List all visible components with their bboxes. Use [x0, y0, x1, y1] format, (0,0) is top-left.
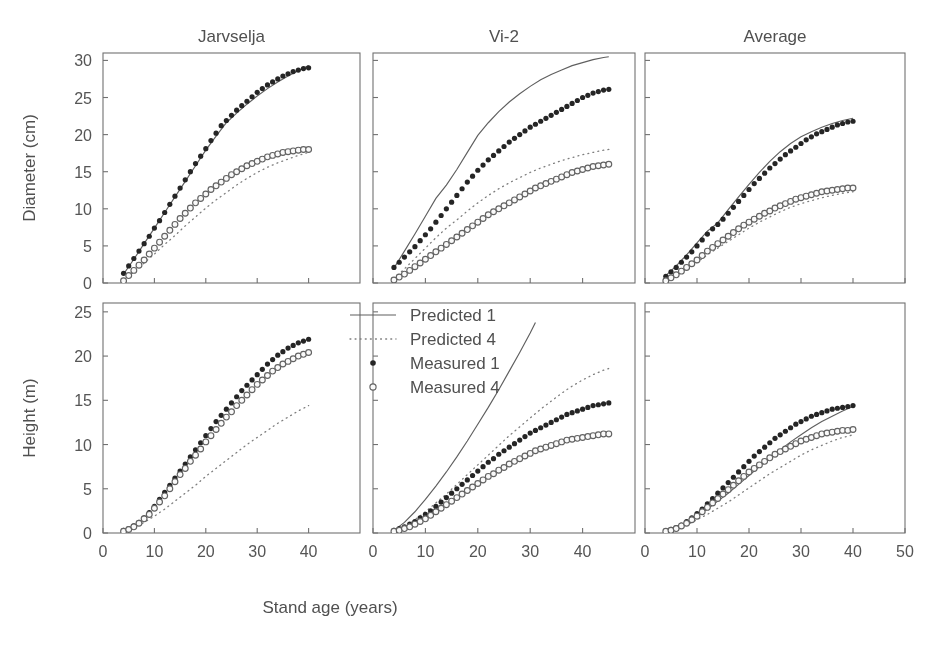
data-point	[684, 520, 690, 526]
y-axis-title-diameter: Diameter (cm)	[20, 114, 39, 222]
data-point	[444, 206, 449, 211]
panel-frame	[645, 53, 905, 283]
data-point	[491, 456, 496, 461]
data-point	[778, 432, 783, 437]
y-tick-label: 25	[74, 304, 92, 321]
data-point	[757, 462, 763, 468]
data-point	[224, 118, 229, 123]
data-point	[193, 452, 199, 458]
data-point	[177, 472, 183, 478]
data-point	[152, 505, 158, 511]
data-point	[234, 108, 239, 113]
data-point	[570, 101, 575, 106]
data-point	[244, 392, 250, 398]
data-point	[699, 509, 705, 515]
x-tick-label: 40	[574, 543, 592, 560]
data-point	[783, 152, 788, 157]
data-point	[193, 161, 198, 166]
data-point	[736, 226, 742, 232]
data-point	[480, 216, 486, 222]
data-point	[585, 93, 590, 98]
y-tick-label: 30	[74, 52, 92, 69]
data-point	[438, 505, 444, 511]
series-measured-1	[391, 87, 611, 270]
data-point	[590, 90, 595, 95]
data-point	[229, 409, 235, 415]
data-point	[788, 425, 793, 430]
series-measured-4	[121, 147, 312, 284]
data-point	[533, 122, 538, 127]
data-point	[772, 161, 777, 166]
data-point	[178, 185, 183, 190]
data-point	[726, 480, 731, 485]
data-point	[183, 177, 188, 182]
series-predicted-1	[124, 66, 309, 274]
data-point	[480, 162, 485, 167]
data-point	[198, 196, 204, 202]
data-point	[306, 350, 312, 356]
data-point	[762, 458, 768, 464]
data-point	[162, 233, 168, 239]
legend-open-circle-icon	[370, 384, 376, 390]
data-point	[177, 216, 183, 222]
y-tick-label: 10	[74, 437, 92, 454]
data-point	[193, 200, 199, 206]
data-point	[522, 128, 527, 133]
panel-average-height: 01020304050	[641, 303, 914, 560]
data-point	[428, 512, 434, 518]
panel-title: Average	[743, 27, 806, 46]
data-point	[454, 234, 460, 240]
data-point	[285, 71, 290, 76]
series-group	[663, 403, 856, 534]
data-point	[830, 407, 835, 412]
panel-title: Jarvselja	[198, 27, 266, 46]
data-point	[470, 473, 475, 478]
data-point	[223, 414, 229, 420]
data-point	[512, 441, 517, 446]
data-point	[575, 408, 580, 413]
data-point	[147, 234, 152, 239]
data-point	[809, 414, 814, 419]
panel-frame	[103, 303, 360, 533]
data-point	[741, 464, 746, 469]
data-point	[798, 419, 803, 424]
x-tick-label: 20	[740, 543, 758, 560]
data-point	[475, 481, 481, 487]
data-point	[464, 227, 470, 233]
series-measured-4	[663, 185, 856, 284]
data-point	[433, 249, 439, 255]
y-tick-label: 20	[74, 127, 92, 144]
data-point	[726, 211, 731, 216]
data-point	[167, 486, 173, 492]
data-point	[549, 420, 554, 425]
data-point	[167, 202, 172, 207]
data-point	[244, 383, 249, 388]
data-point	[491, 153, 496, 158]
x-tick-label: 30	[521, 543, 539, 560]
data-point	[710, 226, 715, 231]
data-point	[840, 121, 845, 126]
data-point	[208, 433, 214, 439]
data-point	[459, 230, 465, 236]
data-point	[480, 464, 485, 469]
data-point	[554, 417, 559, 422]
data-point	[454, 495, 460, 501]
x-tick-label: 30	[248, 543, 266, 560]
data-point	[249, 387, 255, 393]
data-point	[136, 249, 141, 254]
data-point	[491, 471, 497, 477]
data-point	[255, 90, 260, 95]
data-point	[835, 122, 840, 127]
data-point	[512, 136, 517, 141]
y-tick-label: 20	[74, 348, 92, 365]
series-predicted-1	[666, 407, 853, 532]
data-point	[136, 520, 142, 526]
data-point	[746, 187, 751, 192]
data-point	[674, 265, 679, 270]
panel-frame	[645, 303, 905, 533]
data-point	[564, 104, 569, 109]
data-point	[715, 241, 721, 247]
data-point	[559, 415, 564, 420]
data-point	[423, 256, 429, 262]
data-point	[291, 343, 296, 348]
